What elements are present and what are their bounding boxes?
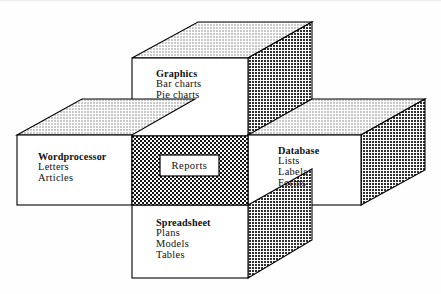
wordprocessor-label-group: Wordprocessor Letters Articles: [38, 152, 107, 184]
database-label-group: Database Lists Labels Forms: [278, 146, 319, 188]
spreadsheet-item-2: Tables: [156, 250, 211, 261]
graphics-label-group: Graphics Bar charts Pie charts: [156, 69, 201, 101]
wordprocessor-item-1: Articles: [38, 173, 107, 184]
isometric-blocks-illustration: [0, 0, 441, 294]
diagram-canvas: Graphics Bar charts Pie charts Wordproce…: [0, 0, 441, 294]
spreadsheet-label-group: Spreadsheet Plans Models Tables: [156, 218, 211, 260]
database-item-2: Forms: [278, 178, 319, 189]
reports-label: Reports: [160, 155, 219, 176]
graphics-item-1: Pie charts: [156, 90, 201, 101]
